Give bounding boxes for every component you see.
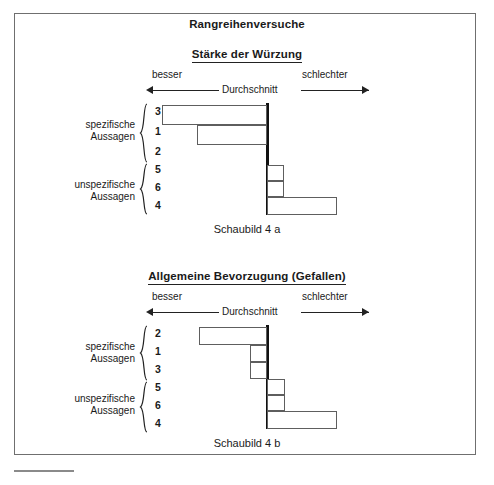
rank-number: 4 [152, 417, 164, 429]
rank-number: 3 [152, 105, 164, 117]
axis-label-schlechter: schlechter [302, 291, 348, 302]
category-group-label: unspezifischeAussagen [40, 393, 135, 417]
axis-label-schlechter: schlechter [302, 69, 348, 80]
group-brace [139, 381, 149, 433]
chart-caption: Schaubild 4 b [0, 437, 494, 449]
category-group-label-line2: Aussagen [40, 191, 135, 203]
category-group-label-line2: Aussagen [40, 405, 135, 417]
group-brace [139, 163, 149, 215]
arrow-right-line [301, 90, 369, 91]
category-group-label-line2: Aussagen [40, 353, 135, 365]
arrow-left-icon [146, 86, 153, 94]
category-group-label: spezifischeAussagen [40, 341, 135, 365]
rank-number: 6 [152, 181, 164, 193]
axis-scale: besserschlechterDurchschnitt [0, 69, 494, 103]
category-group-label-line1: unspezifische [40, 393, 135, 405]
page-title: Rangreihenversuche [0, 18, 494, 30]
bar-rank-5 [267, 379, 285, 395]
rank-number: 1 [152, 125, 164, 137]
rank-number: 1 [152, 345, 164, 357]
footer-rule [14, 470, 74, 472]
bar-rank-3 [162, 105, 267, 125]
bar-rank-1 [197, 125, 267, 145]
category-group-label-line1: spezifische [40, 341, 135, 353]
axis-scale: besserschlechterDurchschnitt [0, 291, 494, 325]
category-group-label: spezifischeAussagen [40, 119, 135, 143]
axis-label-besser: besser [152, 69, 182, 80]
axis-label-durchschnitt: Durchschnitt [219, 84, 281, 95]
chart-title: Allgemeine Bevorzugung (Gefallen) [0, 270, 494, 285]
bar-rank-3 [250, 362, 267, 379]
rank-number: 5 [152, 381, 164, 393]
category-group-label-line1: spezifische [40, 119, 135, 131]
chart-title: Stärke der Würzung [0, 48, 494, 63]
chart-title-text: Stärke der Würzung [192, 48, 302, 63]
rank-number: 2 [152, 145, 164, 157]
bar-rank-2 [199, 327, 267, 345]
plot-area: spezifischeAussagen312unspezifischeAussa… [0, 103, 494, 215]
arrow-left-line [152, 312, 220, 313]
rank-number: 2 [152, 327, 164, 339]
plot-area: spezifischeAussagen213unspezifischeAussa… [0, 325, 494, 429]
chart-caption: Schaubild 4 a [0, 223, 494, 235]
category-group-label-line2: Aussagen [40, 131, 135, 143]
arrow-left-icon [146, 308, 153, 316]
category-group-label-line1: unspezifische [40, 179, 135, 191]
chart-a: Stärke der WürzungbesserschlechterDurchs… [0, 48, 494, 235]
bar-rank-6 [267, 181, 284, 197]
rank-number: 4 [152, 199, 164, 211]
rank-number: 5 [152, 163, 164, 175]
axis-label-durchschnitt: Durchschnitt [219, 306, 281, 317]
rank-number: 3 [152, 363, 164, 375]
arrow-left-line [152, 90, 220, 91]
bar-rank-5 [267, 165, 284, 181]
axis-label-besser: besser [152, 291, 182, 302]
bar-rank-1 [250, 345, 267, 362]
category-group-label: unspezifischeAussagen [40, 179, 135, 203]
bar-rank-6 [267, 395, 285, 411]
arrow-right-icon [362, 86, 369, 94]
group-brace [139, 103, 149, 163]
bar-rank-4 [267, 411, 337, 429]
arrow-right-line [301, 312, 369, 313]
bar-rank-4 [267, 197, 337, 215]
rank-number: 6 [152, 399, 164, 411]
arrow-right-icon [362, 308, 369, 316]
chart-title-text: Allgemeine Bevorzugung (Gefallen) [148, 270, 346, 285]
group-brace [139, 325, 149, 381]
chart-b: Allgemeine Bevorzugung (Gefallen)bessers… [0, 270, 494, 449]
